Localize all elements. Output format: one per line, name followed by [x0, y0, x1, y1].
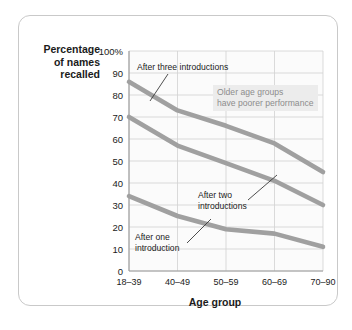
y-axis-label-line-1: Percentage: [22, 43, 100, 56]
annotation-older-age-groups-note: Older age groups have poorer performance: [213, 85, 318, 111]
x-axis-tick-label: 18–39: [107, 277, 151, 287]
x-axis-tick-label: 50–59: [204, 277, 248, 287]
x-axis-tick-label: 40–49: [156, 277, 200, 287]
x-axis-label: Age group: [120, 296, 310, 308]
y-axis-tick-label: 90: [93, 68, 123, 79]
x-axis-tick-label: 70–90: [301, 277, 345, 287]
y-axis-tick-label: 60: [93, 134, 123, 145]
y-axis-tick-label: 20: [93, 222, 123, 233]
annotation-after-three-introductions: After three introductions: [137, 62, 228, 73]
y-axis-tick-label: 30: [93, 200, 123, 211]
x-axis-tick-label: 60–69: [253, 277, 297, 287]
y-axis-label: Percentage of names recalled: [22, 43, 100, 81]
y-axis-tick-label: 100%: [93, 46, 123, 57]
y-axis-label-line-2: of names: [22, 56, 100, 69]
y-axis-tick-label: 40: [93, 178, 123, 189]
y-axis-tick-label: 50: [93, 156, 123, 167]
y-axis-tick-label: 80: [93, 90, 123, 101]
y-axis-tick-label: 10: [93, 244, 123, 255]
annotation-after-one-introduction: After one introduction: [135, 232, 179, 253]
y-axis-tick-label: 0: [93, 266, 123, 277]
y-axis-label-line-3: recalled: [22, 68, 100, 81]
y-axis-tick-label: 70: [93, 112, 123, 123]
annotation-after-two-introductions: After two introductions: [198, 190, 247, 211]
